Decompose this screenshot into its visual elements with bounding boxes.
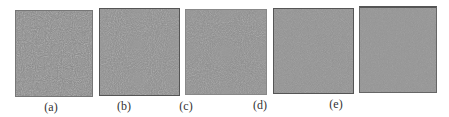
- noise-texture-4: [274, 9, 353, 93]
- noise-panel-2: [99, 8, 180, 96]
- noise-texture-2: [100, 9, 179, 95]
- noise-texture-1: [16, 11, 92, 96]
- noise-panel-5: [359, 6, 437, 93]
- panel-label-c: (c): [179, 100, 192, 112]
- panel-label-d: (d): [253, 99, 267, 111]
- noise-texture-3: [186, 10, 266, 94]
- noise-panel-1: [15, 10, 93, 97]
- noise-panel-4: [273, 8, 354, 94]
- panel-label-e: (e): [329, 98, 342, 110]
- panel-label-b: (b): [117, 100, 131, 112]
- noise-panel-3: [185, 9, 267, 95]
- panel-label-a: (a): [44, 101, 57, 113]
- noise-texture-5: [360, 8, 436, 92]
